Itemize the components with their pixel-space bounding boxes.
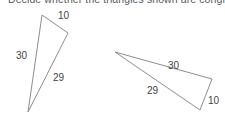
left-triangle-label-left: 30 xyxy=(16,50,28,61)
left-triangle-label-top: 10 xyxy=(58,10,70,21)
right-triangle-outline xyxy=(115,52,212,110)
left-triangle-outline xyxy=(28,15,68,112)
geometry-figure: Decide whether the triangles shown are c… xyxy=(0,0,225,123)
right-triangle-label-right: 10 xyxy=(208,95,220,106)
triangles-svg: 10 30 29 30 29 10 xyxy=(0,0,225,123)
right-triangle-label-left: 29 xyxy=(147,85,159,96)
left-triangle-label-right: 29 xyxy=(53,72,65,83)
right-triangle-label-top: 30 xyxy=(168,60,180,71)
